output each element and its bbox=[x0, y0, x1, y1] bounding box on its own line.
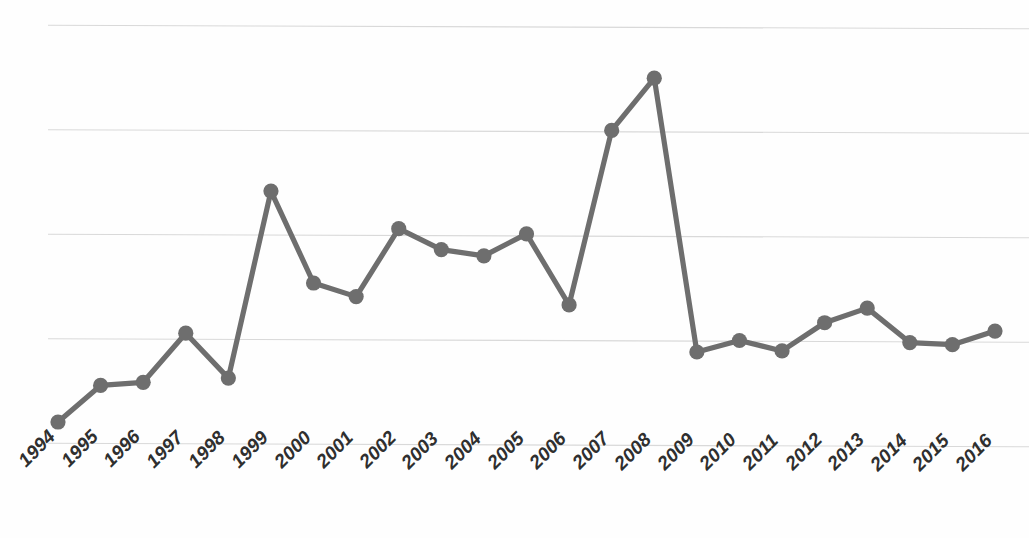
data-point-marker[interactable] bbox=[689, 344, 704, 359]
plot-area bbox=[0, 0, 1029, 460]
data-point-marker[interactable] bbox=[604, 123, 619, 138]
data-point-marker[interactable] bbox=[263, 183, 278, 198]
data-point-marker[interactable] bbox=[50, 414, 65, 429]
data-point-marker[interactable] bbox=[349, 289, 364, 304]
data-point-marker[interactable] bbox=[93, 378, 108, 393]
data-point-marker[interactable] bbox=[519, 226, 534, 241]
data-point-marker[interactable] bbox=[945, 337, 960, 352]
data-point-marker[interactable] bbox=[306, 275, 321, 290]
x-axis-tick-labels: 1994199519961997199819992000200120022003… bbox=[0, 448, 1029, 538]
chart-container: 1994199519961997199819992000200120022003… bbox=[0, 0, 1029, 538]
data-point-marker[interactable] bbox=[178, 326, 193, 341]
data-point-marker[interactable] bbox=[561, 297, 576, 312]
data-point-marker[interactable] bbox=[476, 248, 491, 263]
data-point-marker[interactable] bbox=[221, 371, 236, 386]
data-point-marker[interactable] bbox=[136, 375, 151, 390]
data-point-marker[interactable] bbox=[987, 323, 1002, 338]
data-point-marker[interactable] bbox=[391, 221, 406, 236]
data-point-marker[interactable] bbox=[434, 242, 449, 257]
data-point-marker[interactable] bbox=[902, 335, 917, 350]
series-line bbox=[58, 78, 995, 422]
series-group bbox=[0, 0, 1029, 460]
data-point-marker[interactable] bbox=[647, 71, 662, 86]
data-point-marker[interactable] bbox=[774, 343, 789, 358]
data-point-marker[interactable] bbox=[860, 301, 875, 316]
data-point-marker[interactable] bbox=[817, 315, 832, 330]
data-point-marker[interactable] bbox=[732, 333, 747, 348]
